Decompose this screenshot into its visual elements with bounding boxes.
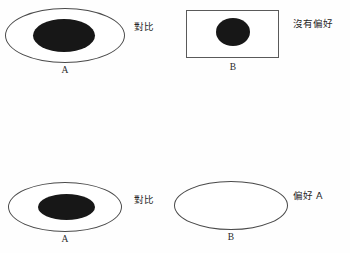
- comparison-row-2: A 對比 B 偏好 A: [0, 86, 350, 170]
- comparison-row-1: A 對比 B 沒有偏好: [0, 0, 350, 86]
- contrast-label-row1: 對比: [134, 21, 154, 33]
- stimulus-label-b: B: [213, 62, 253, 73]
- comparison-row-3: A 對比 B 偏好 A: [0, 170, 350, 253]
- black-ellipse-blob-icon: [33, 19, 95, 52]
- comparison-figure: A 對比 B 沒有偏好 A 對比 B 偏好 A A 對比: [0, 0, 350, 253]
- stimulus-label-a: A: [45, 65, 85, 76]
- black-ellipse-blob-icon: [216, 18, 250, 46]
- judgment-label-row1: 沒有偏好: [293, 18, 333, 30]
